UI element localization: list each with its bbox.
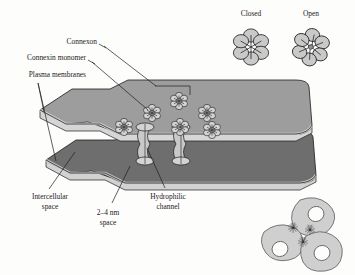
connexon-rosette (204, 121, 221, 138)
label-plasma-membranes: Plasma membranes (29, 70, 86, 79)
connexon-rosette (116, 118, 133, 135)
connexon-rosette (171, 92, 188, 109)
label-gap-space-line1: 2–4 nm (97, 208, 120, 217)
connexon-rosette (144, 104, 161, 121)
label-intercellular-space-line2: space (42, 202, 59, 211)
connexon-rosette (199, 104, 216, 121)
label-open: Open (303, 9, 319, 18)
label-hydrophilic-channel-line1: Hydrophilic (150, 192, 186, 201)
connexon-rosette (172, 118, 189, 135)
label-connexon: Connexon (67, 37, 98, 46)
gap-junction-diagram: Connexon Connexin monomer Plasma membran… (0, 0, 355, 275)
label-hydrophilic-channel-line2: channel (157, 202, 180, 211)
label-connexin-monomer: Connexin monomer (27, 53, 86, 62)
label-gap-space-line2: space (100, 218, 117, 227)
label-intercellular-space-line1: Intercellular (32, 192, 69, 201)
label-closed: Closed (241, 9, 262, 18)
